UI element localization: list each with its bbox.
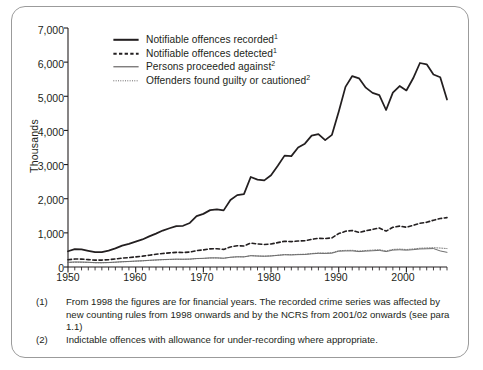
x-tick-1970: 1970: [179, 271, 225, 283]
x-tick-1960: 1960: [112, 271, 158, 283]
chart-legend: Notifiable offences recorded1 Notifiable…: [113, 33, 310, 87]
footnote-2-marker: (2): [36, 334, 66, 347]
legend-key-thin-solid: [113, 60, 139, 74]
legend-key-bold-dashed: [113, 47, 139, 61]
y-tick-1000: 1,000: [22, 229, 64, 239]
x-tick-2000: 2000: [380, 271, 426, 283]
x-tick-1950: 1950: [45, 271, 91, 283]
legend-item-notifiable-offences-recorded: Notifiable offences recorded1: [113, 33, 310, 47]
y-tick-4000: 4,000: [22, 127, 64, 137]
y-tick-7000: 7,000: [22, 25, 64, 35]
x-tick-1990: 1990: [313, 271, 359, 283]
legend-label-0: Notifiable offences recorded1: [146, 33, 278, 47]
legend-item-notifiable-offences-detected: Notifiable offences detected1: [113, 47, 310, 61]
chart-plot-area: Thousands 7,000 6,000 5,000 4,000 3,000 …: [0, 0, 483, 295]
series-line-offenders-found-guilty-or-cautioned: [68, 248, 447, 263]
legend-item-persons-proceeded-against: Persons proceeded against2: [113, 60, 310, 74]
chart-footnotes: (1) From 1998 the figures are for financ…: [36, 296, 460, 346]
y-tick-6000: 6,000: [22, 59, 64, 69]
footnote-2-text: Indictable offences with allowance for u…: [66, 334, 460, 347]
series-line-notifiable-offences-recorded: [68, 63, 447, 252]
x-tick-1980: 1980: [246, 271, 292, 283]
legend-label-2: Persons proceeded against2: [146, 60, 275, 74]
legend-sup-0: 1: [274, 33, 278, 40]
y-tick-5000: 5,000: [22, 93, 64, 103]
legend-sup-1: 1: [273, 46, 277, 53]
footnote-1-text: From 1998 the figures are for financial …: [66, 296, 460, 334]
footnote-1: (1) From 1998 the figures are for financ…: [36, 296, 460, 334]
footnote-1-marker: (1): [36, 296, 66, 334]
chart-series-group: [68, 63, 447, 263]
legend-sup-3: 2: [306, 73, 310, 80]
legend-item-offenders-found-guilty-or-cautioned: Offenders found guilty or cautioned2: [113, 74, 310, 88]
y-tick-2000: 2,000: [22, 195, 64, 205]
legend-key-fine-dotted: [113, 74, 139, 88]
series-line-notifiable-offences-detected: [68, 218, 447, 260]
legend-label-3: Offenders found guilty or cautioned2: [146, 74, 310, 88]
y-tick-3000: 3,000: [22, 161, 64, 171]
legend-label-1: Notifiable offences detected1: [146, 47, 277, 61]
y-axis-major-ticks: [64, 28, 68, 267]
x-axis-tick-labels: 1950 1960 1970 1980 1990 2000: [0, 271, 483, 291]
y-axis-tick-labels: 7,000 6,000 5,000 4,000 3,000 2,000 1,00…: [18, 0, 64, 295]
legend-key-thick-solid: [113, 33, 139, 47]
footnote-2: (2) Indictable offences with allowance f…: [36, 334, 460, 347]
legend-sup-2: 2: [271, 60, 275, 67]
